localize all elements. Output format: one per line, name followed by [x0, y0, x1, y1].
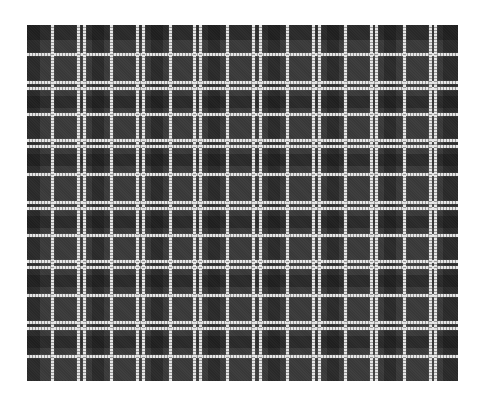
- plaid-line-vertical: [169, 25, 172, 381]
- dark-band-horizontal: [27, 216, 458, 228]
- plaid-line-vertical: [434, 25, 437, 381]
- plaid-line-vertical: [370, 25, 373, 381]
- plaid-line-vertical: [83, 25, 86, 381]
- plaid-line-vertical: [312, 25, 315, 381]
- plaid-line-horizontal: [27, 294, 458, 297]
- dark-band-horizontal: [27, 96, 458, 108]
- plaid-line-horizontal: [27, 234, 458, 237]
- plaid-line-vertical: [318, 25, 321, 381]
- plaid-line-horizontal: [27, 355, 458, 358]
- plaid-line-vertical: [51, 25, 54, 381]
- plaid-line-horizontal: [27, 81, 458, 84]
- plaid-line-horizontal: [27, 321, 458, 324]
- plaid-fabric-swatch: [27, 25, 458, 381]
- plaid-line-horizontal: [27, 53, 458, 56]
- plaid-line-vertical: [193, 25, 196, 381]
- plaid-line-vertical: [259, 25, 262, 381]
- plaid-line-horizontal: [27, 201, 458, 204]
- plaid-line-horizontal: [27, 266, 458, 269]
- plaid-line-horizontal: [27, 173, 458, 176]
- plaid-line-vertical: [199, 25, 202, 381]
- plaid-line-vertical: [429, 25, 432, 381]
- dark-band-horizontal: [27, 154, 458, 166]
- plaid-line-horizontal: [27, 139, 458, 142]
- plaid-line-horizontal: [27, 145, 458, 148]
- plaid-line-vertical: [226, 25, 229, 381]
- plaid-line-vertical: [344, 25, 347, 381]
- dark-band-horizontal: [27, 25, 458, 40]
- plaid-line-vertical: [375, 25, 378, 381]
- plaid-line-vertical: [252, 25, 255, 381]
- dark-band-horizontal: [27, 275, 458, 287]
- dark-band-horizontal: [27, 336, 458, 348]
- plaid-line-vertical: [110, 25, 113, 381]
- plaid-line-vertical: [142, 25, 145, 381]
- plaid-line-horizontal: [27, 327, 458, 330]
- plaid-line-vertical: [286, 25, 289, 381]
- plaid-line-horizontal: [27, 260, 458, 263]
- plaid-line-vertical: [77, 25, 80, 381]
- plaid-line-vertical: [136, 25, 139, 381]
- plaid-line-horizontal: [27, 207, 458, 210]
- plaid-line-vertical: [403, 25, 406, 381]
- plaid-line-horizontal: [27, 87, 458, 90]
- plaid-line-horizontal: [27, 113, 458, 116]
